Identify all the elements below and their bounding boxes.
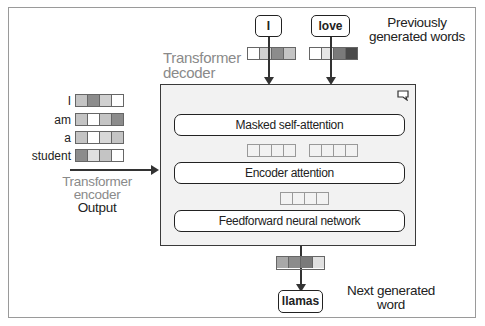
vector-cell [272, 145, 284, 156]
vector-cell [112, 95, 123, 106]
vector-cell [112, 114, 123, 125]
vector-cell [76, 150, 88, 161]
next-line2: word [336, 298, 446, 312]
encoder-word: I [26, 95, 71, 108]
vector-cell [112, 132, 123, 143]
vector-cell [322, 145, 334, 156]
vector-cell [260, 48, 272, 59]
vector-cell [76, 132, 88, 143]
output-word-box: llamas [278, 290, 323, 313]
vector-cell [284, 48, 295, 59]
next-generated-label: Next generated word [336, 284, 446, 312]
vector-cell [277, 257, 289, 268]
vector-cell [346, 48, 357, 59]
vector-cell [260, 145, 272, 156]
vector-cell [76, 95, 88, 106]
encoder-word-vector [75, 94, 124, 107]
vector-cell [88, 95, 100, 106]
decoder-title-line2: decoder [163, 65, 241, 80]
vector-cell [293, 193, 305, 204]
encoder-word: am [26, 114, 71, 127]
vector-cell [289, 257, 301, 268]
vector-cell [76, 114, 88, 125]
encoder-word: a [26, 132, 71, 145]
vector-cell [284, 145, 295, 156]
encoder-word: student [26, 150, 71, 163]
vector-cell [88, 114, 100, 125]
previous-word-vector [247, 47, 296, 60]
output-vector [276, 256, 325, 270]
vector-cell [100, 95, 112, 106]
encoder-attention-layer: Encoder attention [174, 162, 405, 184]
encoder-output-label: Transformer encoder Output [62, 175, 132, 214]
vector-cell [248, 48, 260, 59]
previously-generated-label: Previously generated words [362, 16, 472, 44]
vector-cell [88, 132, 100, 143]
vector-cell [322, 48, 334, 59]
vector-cell [313, 257, 324, 268]
encoder-label-line3: Output [62, 201, 132, 214]
vector-cell [100, 150, 112, 161]
vector-cell [317, 193, 328, 204]
vector-cell [88, 150, 100, 161]
vector-cell [310, 145, 322, 156]
previous-word-vector [309, 47, 358, 60]
vector-cell [310, 48, 322, 59]
previous-word-box: I [255, 15, 282, 37]
vector-cell [334, 145, 346, 156]
vector-cell [281, 193, 293, 204]
decoder-title-line1: Transformer [163, 50, 241, 65]
encoder-word-vector [75, 149, 124, 162]
decoder-block: Masked self-attention Encoder attention … [160, 84, 416, 246]
vector-cell [100, 132, 112, 143]
comment-icon [397, 90, 409, 101]
vector-cell [272, 48, 284, 59]
masked-self-attention-layer: Masked self-attention [174, 114, 405, 136]
vector-cell [301, 257, 313, 268]
vector-cell [248, 145, 260, 156]
intermediate-vector [280, 192, 329, 205]
vector-cell [100, 114, 112, 125]
encoder-word-vector [75, 131, 124, 144]
encoder-word-vector [75, 113, 124, 126]
vector-cell [334, 48, 346, 59]
arrow-right-icon [151, 165, 159, 175]
vector-cell [112, 150, 123, 161]
output-word-text: llamas [282, 294, 319, 308]
vector-cell [305, 193, 317, 204]
previous-word-text: I [267, 19, 270, 33]
intermediate-vector [309, 144, 358, 157]
feedforward-layer: Feedforward neural network [174, 210, 405, 232]
next-line1: Next generated [336, 284, 446, 298]
arrow-line [330, 37, 332, 79]
vector-cell [346, 145, 357, 156]
previously-line2: generated words [362, 30, 472, 44]
encoder-arrow-line [70, 169, 152, 171]
decoder-title: Transformer decoder [163, 50, 241, 80]
intermediate-vector [247, 144, 296, 157]
previous-word-text: love [318, 19, 342, 33]
previously-line1: Previously [362, 16, 472, 30]
arrow-line [268, 37, 270, 79]
previous-word-box: love [311, 15, 350, 37]
